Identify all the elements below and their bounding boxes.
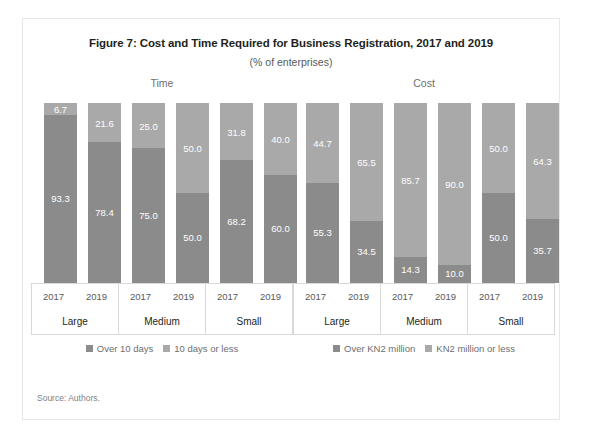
bar-segment-upper: 6.7: [44, 103, 77, 115]
bar-segment-upper: 85.7: [394, 103, 427, 257]
bar-segment-label: 44.7: [313, 139, 332, 149]
legend-label: 10 days or less: [174, 343, 238, 354]
legend-item[interactable]: KN2 million or less: [425, 343, 515, 354]
axis-year-label: 2017: [294, 291, 337, 302]
bar-segment-label: 34.5: [357, 247, 376, 257]
axis-year-row: 20172019: [381, 284, 467, 309]
bar-cost-medium-2019: 90.010.0: [438, 103, 471, 283]
axis-group-small: 20172019Small: [467, 283, 555, 335]
plot-area-time: 6.793.321.678.425.075.050.050.031.868.24…: [31, 103, 293, 283]
axis-year-label: 2017: [206, 291, 249, 302]
bar-segment-label: 50.0: [489, 233, 508, 243]
bar-segment-upper: 31.8: [220, 103, 253, 160]
bar-segment-label: 68.2: [227, 217, 246, 227]
legend-label: Over KN2 million: [344, 343, 415, 354]
bar-cost-small-2017: 50.050.0: [482, 103, 515, 283]
figure-subtitle: (% of enterprises): [23, 56, 559, 68]
bar-segment-lower: 35.7: [526, 219, 559, 283]
bar-segment-lower: 78.4: [88, 142, 121, 283]
bar-segment-upper: 90.0: [438, 103, 471, 265]
bar-cost-large-2017: 44.755.3: [306, 103, 339, 283]
axis-year-row: 20172019: [119, 284, 205, 309]
bar-segment-upper: 25.0: [132, 103, 165, 148]
axis-group-large: 20172019Large: [31, 283, 118, 335]
bar-segment-lower: 93.3: [44, 115, 77, 283]
axis-cost: 20172019Large20172019Medium20172019Small: [293, 283, 555, 335]
panel-time: Time 6.793.321.678.425.075.050.050.031.8…: [31, 77, 293, 367]
bar-segment-lower: 34.5: [350, 221, 383, 283]
legend-swatch-icon: [86, 345, 93, 352]
bar-segment-upper: 65.5: [350, 103, 383, 221]
bar-segment-lower: 50.0: [482, 193, 515, 283]
bar-segment-upper: 64.3: [526, 103, 559, 219]
bar-segment-label: 50.0: [489, 144, 508, 154]
axis-category-label: Medium: [119, 309, 205, 334]
axis-group-medium: 20172019Medium: [380, 283, 467, 335]
axis-year-label: 2019: [249, 291, 292, 302]
axis-category-label: Small: [206, 309, 292, 334]
bar-segment-upper: 50.0: [482, 103, 515, 193]
bar-segment-lower: 50.0: [176, 193, 209, 283]
axis-year-label: 2017: [32, 291, 75, 302]
bar-segment-label: 75.0: [139, 211, 158, 221]
bar-segment-label: 50.0: [183, 144, 202, 154]
legend-label: KN2 million or less: [436, 343, 515, 354]
bar-segment-label: 65.5: [357, 158, 376, 168]
bar-segment-lower: 75.0: [132, 148, 165, 283]
legend-label: Over 10 days: [97, 343, 154, 354]
bar-time-large-2017: 6.793.3: [44, 103, 77, 283]
panel-cost: Cost 44.755.365.534.585.714.390.010.050.…: [293, 77, 555, 367]
bar-segment-lower: 55.3: [306, 183, 339, 283]
axis-year-label: 2019: [424, 291, 467, 302]
bar-time-medium-2017: 25.075.0: [132, 103, 165, 283]
axis-year-label: 2017: [468, 291, 511, 302]
axis-category-label: Large: [294, 309, 380, 334]
bar-segment-label: 25.0: [139, 122, 158, 132]
bar-segment-label: 60.0: [271, 224, 290, 234]
figure-frame: Figure 7: Cost and Time Required for Bus…: [22, 18, 560, 420]
figure-title: Figure 7: Cost and Time Required for Bus…: [23, 37, 559, 49]
bar-cost-medium-2017: 85.714.3: [394, 103, 427, 283]
bar-time-medium-2019: 50.050.0: [176, 103, 209, 283]
bar-segment-lower: 14.3: [394, 257, 427, 283]
bar-time-small-2017: 31.868.2: [220, 103, 253, 283]
axis-group-large: 20172019Large: [293, 283, 380, 335]
axis-time: 20172019Large20172019Medium20172019Small: [31, 283, 293, 335]
axis-category-label: Medium: [381, 309, 467, 334]
legend-item[interactable]: Over KN2 million: [333, 343, 415, 354]
source-note: Source: Authors.: [37, 393, 100, 403]
legend-cost: Over KN2 millionKN2 million or less: [293, 343, 555, 354]
plot-area-cost: 44.755.365.534.585.714.390.010.050.050.0…: [293, 103, 555, 283]
legend-item[interactable]: Over 10 days: [86, 343, 154, 354]
bar-segment-lower: 10.0: [438, 265, 471, 283]
bar-segment-label: 35.7: [533, 246, 552, 256]
axis-year-row: 20172019: [206, 284, 292, 309]
axis-year-label: 2017: [119, 291, 162, 302]
axis-year-row: 20172019: [32, 284, 118, 309]
axis-year-row: 20172019: [294, 284, 380, 309]
panels-container: Time 6.793.321.678.425.075.050.050.031.8…: [23, 77, 559, 367]
axis-group-medium: 20172019Medium: [118, 283, 205, 335]
axis-group-small: 20172019Small: [205, 283, 293, 335]
legend-item[interactable]: 10 days or less: [163, 343, 238, 354]
bar-segment-upper: 50.0: [176, 103, 209, 193]
bar-segment-upper: 44.7: [306, 103, 339, 183]
axis-category-label: Small: [468, 309, 554, 334]
axis-year-label: 2019: [75, 291, 118, 302]
bar-cost-small-2019: 64.335.7: [526, 103, 559, 283]
bar-segment-lower: 68.2: [220, 160, 253, 283]
axis-year-row: 20172019: [468, 284, 554, 309]
panel-title-cost: Cost: [293, 77, 555, 89]
legend-time: Over 10 days10 days or less: [31, 343, 293, 354]
axis-year-label: 2019: [162, 291, 205, 302]
bar-segment-label: 64.3: [533, 157, 552, 167]
bar-cost-large-2019: 65.534.5: [350, 103, 383, 283]
axis-year-label: 2019: [337, 291, 380, 302]
bar-segment-label: 50.0: [183, 233, 202, 243]
bar-segment-upper: 21.6: [88, 103, 121, 142]
bar-segment-label: 10.0: [445, 269, 464, 279]
panel-title-time: Time: [31, 77, 293, 89]
legend-swatch-icon: [333, 345, 340, 352]
bar-segment-label: 6.7: [54, 105, 67, 115]
bar-segment-label: 93.3: [51, 194, 70, 204]
